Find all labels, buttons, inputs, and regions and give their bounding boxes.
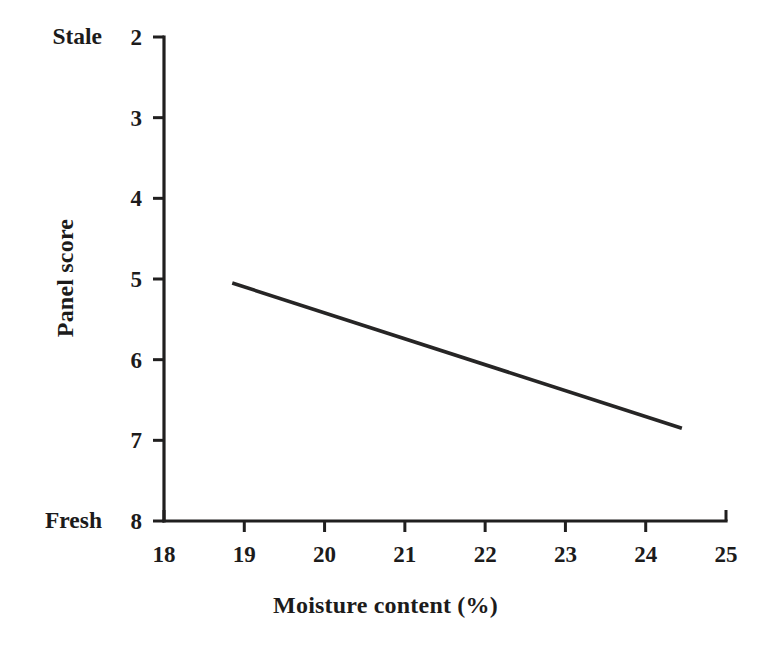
x-tick-label: 25 [715,543,738,566]
series-line-0 [232,283,682,428]
y-tick-label: 6 [131,348,143,371]
y-tick-label: 2 [131,26,143,49]
y-tick-label: 3 [131,106,143,129]
y-tick-label: 7 [131,429,143,452]
x-tick-label: 19 [233,543,256,566]
x-tick-label: 24 [634,543,657,566]
y-tick-label: 4 [131,187,143,210]
axes-group [164,37,726,521]
x-tick-label: 20 [313,543,336,566]
x-tick-label: 23 [554,543,577,566]
chart-figure: 1819202122232425 2345678 Stale Fresh Pan… [0,0,771,652]
y-axis-title: Panel score [52,219,79,337]
x-tick-label: 18 [153,543,176,566]
x-axis-title: Moisture content (%) [0,592,771,619]
data-series [232,283,682,428]
y-tick-label: 8 [131,510,143,533]
x-tick-label: 21 [393,543,416,566]
y-tick-label: 5 [131,268,143,291]
x-tick-label: 22 [474,543,497,566]
y-axis-bottom-anchor-label: Fresh [45,509,102,533]
y-axis-top-anchor-label: Stale [52,25,102,49]
